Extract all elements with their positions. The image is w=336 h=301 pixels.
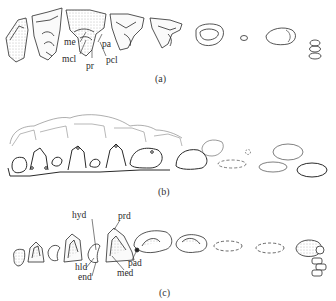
- label-mcl: mcl: [62, 54, 76, 64]
- dentition-diagram: [0, 0, 336, 301]
- label-pcl: pcl: [106, 55, 118, 65]
- panel-b-caption: (b): [158, 186, 170, 197]
- panel-c-caption: (c): [159, 287, 170, 298]
- panel-b-teeth: [8, 115, 327, 177]
- label-pa: pa: [102, 39, 111, 49]
- label-prd: prd: [118, 211, 131, 221]
- label-med: med: [117, 268, 133, 278]
- panel-c-teeth: [14, 228, 326, 276]
- label-pad: pad: [128, 258, 142, 268]
- label-pr: pr: [86, 61, 94, 71]
- label-me: me: [64, 37, 76, 47]
- label-end: end: [78, 272, 92, 282]
- panel-a-caption: (a): [155, 73, 166, 84]
- label-hld: hld: [75, 262, 87, 272]
- label-hyd: hyd: [72, 210, 86, 220]
- panel-a-teeth: [6, 8, 321, 62]
